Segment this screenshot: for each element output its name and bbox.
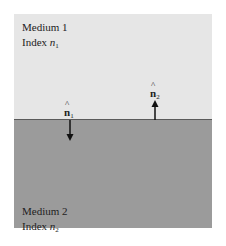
arrow-n1-down-icon: [67, 120, 74, 141]
normal-arrows: [14, 14, 212, 228]
arrow-n2-up-icon: [152, 100, 159, 120]
diagram-frame: Medium 1 Index n1 Medium 2 Index n2 ^n1 …: [14, 14, 212, 228]
